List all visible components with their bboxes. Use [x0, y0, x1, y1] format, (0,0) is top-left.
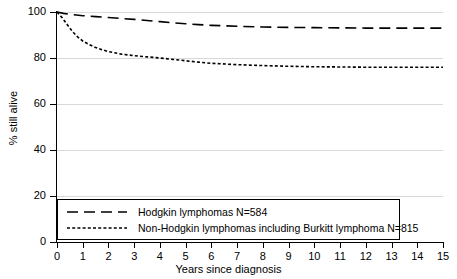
legend-item-hodgkin: Hodgkin lymphomas N=584: [66, 205, 267, 219]
y-tick: [50, 104, 56, 105]
x-tick: [366, 243, 367, 248]
y-tick-label: 0: [18, 236, 46, 247]
x-tick: [289, 243, 290, 248]
survival-chart: 020406080100 0123456789101112131415 Year…: [0, 0, 457, 279]
x-tick-label: 8: [251, 250, 275, 262]
legend: Hodgkin lymphomas N=584 Non-Hodgkin lymp…: [57, 199, 400, 240]
x-tick: [314, 243, 315, 248]
x-tick-label: 13: [380, 250, 404, 262]
y-tick: [50, 242, 56, 243]
x-tick: [392, 243, 393, 248]
x-tick: [340, 243, 341, 248]
x-tick-label: 5: [174, 250, 198, 262]
x-tick: [237, 243, 238, 248]
x-tick: [211, 243, 212, 248]
x-tick-label: 15: [431, 250, 455, 262]
legend-key-long-dash: [66, 206, 128, 218]
x-tick-label: 12: [354, 250, 378, 262]
x-tick-label: 14: [405, 250, 429, 262]
x-tick-label: 10: [302, 250, 326, 262]
x-tick-label: 3: [122, 250, 146, 262]
gridline: [57, 150, 443, 151]
y-tick: [50, 196, 56, 197]
legend-item-non-hodgkin: Non-Hodgkin lymphomas including Burkitt …: [66, 221, 418, 235]
x-tick: [134, 243, 135, 248]
gridline: [57, 58, 443, 59]
x-tick-label: 6: [199, 250, 223, 262]
x-tick: [263, 243, 264, 248]
y-axis-title: % still alive: [7, 63, 19, 173]
x-tick: [108, 243, 109, 248]
gridline: [57, 196, 443, 197]
y-tick-label: 20: [18, 190, 46, 201]
y-tick-label: 40: [18, 144, 46, 155]
legend-key-dotted: [66, 222, 128, 234]
x-tick-label: 9: [277, 250, 301, 262]
x-tick-label: 11: [328, 250, 352, 262]
x-tick-label: 2: [96, 250, 120, 262]
x-tick-label: 0: [45, 250, 69, 262]
y-tick: [50, 12, 56, 13]
x-tick: [83, 243, 84, 248]
y-tick-label: 80: [18, 52, 46, 63]
legend-label-hodgkin: Hodgkin lymphomas N=584: [138, 206, 267, 218]
x-tick-label: 7: [225, 250, 249, 262]
x-tick: [160, 243, 161, 248]
x-tick: [417, 243, 418, 248]
x-tick: [186, 243, 187, 248]
x-tick: [57, 243, 58, 248]
y-tick-label: 60: [18, 98, 46, 109]
x-tick: [443, 243, 444, 248]
x-axis-line: [56, 242, 444, 243]
y-tick: [50, 150, 56, 151]
legend-label-non-hodgkin: Non-Hodgkin lymphomas including Burkitt …: [138, 222, 418, 234]
y-tick: [50, 58, 56, 59]
gridline: [57, 104, 443, 105]
gridline: [57, 12, 443, 13]
x-tick-label: 1: [71, 250, 95, 262]
y-tick-label: 100: [18, 6, 46, 17]
x-axis-title: Years since diagnosis: [0, 263, 457, 275]
x-tick-label: 4: [148, 250, 172, 262]
